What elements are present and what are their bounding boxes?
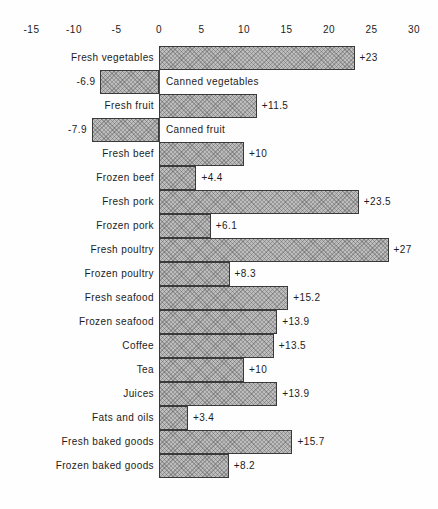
bar-row: Tea+10: [0, 358, 438, 382]
bar: [159, 358, 244, 382]
bar-row: Fresh pork+23.5: [0, 190, 438, 214]
value-label: +13.9: [282, 310, 309, 334]
category-label: Frozen beef: [96, 166, 154, 190]
value-label: +8.3: [235, 262, 256, 286]
bar: [159, 430, 292, 454]
category-label: Fresh vegetables: [71, 46, 154, 70]
bar-row: Fresh seafood+15.2: [0, 286, 438, 310]
bar: [159, 262, 230, 286]
value-label: -6.9: [77, 70, 96, 94]
value-label: +23: [360, 46, 378, 70]
bar: [159, 94, 257, 118]
category-label: Fresh pork: [102, 190, 154, 214]
bar-row: Frozen baked goods+8.2: [0, 454, 438, 478]
bar: [159, 46, 355, 70]
x-axis-tick-label: -10: [66, 23, 82, 37]
x-axis-tick-label: -15: [24, 23, 40, 37]
value-label: -7.9: [68, 118, 87, 142]
bar-row: Fresh baked goods+15.7: [0, 430, 438, 454]
bar: [159, 454, 229, 478]
value-label: +3.4: [193, 406, 214, 430]
bar: [159, 214, 211, 238]
bar-row: Frozen seafood+13.9: [0, 310, 438, 334]
category-label: Fresh baked goods: [62, 430, 154, 454]
x-axis-tick-label: 0: [156, 23, 162, 37]
bar: [159, 382, 277, 406]
bar: [159, 286, 288, 310]
bar-row: Fresh fruit+11.5: [0, 94, 438, 118]
value-label: +10: [249, 358, 267, 382]
category-label: Fresh seafood: [85, 286, 154, 310]
bar-row: Frozen pork+6.1: [0, 214, 438, 238]
bar: [159, 166, 196, 190]
bar-row: Canned vegetables-6.9: [0, 70, 438, 94]
x-axis-tick-label: 15: [280, 23, 292, 37]
value-label: +10: [249, 142, 267, 166]
bar-row: Fresh vegetables+23: [0, 46, 438, 70]
bar-row: Fresh poultry+27: [0, 238, 438, 262]
bar-row: Frozen beef+4.4: [0, 166, 438, 190]
category-label: Fresh beef: [102, 142, 154, 166]
category-label: Tea: [137, 358, 154, 382]
bar: [159, 334, 274, 358]
bar: [159, 142, 244, 166]
x-axis-tick-label: 25: [365, 23, 377, 37]
value-label: +8.2: [234, 454, 255, 478]
x-axis-tick-label: -5: [112, 23, 122, 37]
value-label: +6.1: [216, 214, 237, 238]
bar-row: Fats and oils+3.4: [0, 406, 438, 430]
x-axis-tick-label: 10: [238, 23, 250, 37]
plot-area: Fresh vegetables+23Canned vegetables-6.9…: [0, 46, 438, 478]
category-label: Fats and oils: [92, 406, 154, 430]
value-label: +13.5: [279, 334, 306, 358]
category-label: Canned vegetables: [166, 70, 259, 94]
value-label: +15.7: [297, 430, 324, 454]
x-axis: -15-10-5051015202530: [0, 23, 438, 37]
value-label: +11.5: [262, 94, 289, 118]
value-label: +13.9: [282, 382, 309, 406]
category-label: Fresh poultry: [90, 238, 154, 262]
category-label: Frozen poultry: [84, 262, 154, 286]
x-axis-tick-label: 5: [198, 23, 204, 37]
bar: [159, 406, 188, 430]
bar-row: Frozen poultry+8.3: [0, 262, 438, 286]
bar: [159, 238, 389, 262]
category-label: Canned fruit: [166, 118, 225, 142]
value-label: +23.5: [364, 190, 391, 214]
category-label: Fresh fruit: [105, 94, 154, 118]
bar-row: Canned fruit-7.9: [0, 118, 438, 142]
bar-row: Coffee+13.5: [0, 334, 438, 358]
bar: [159, 190, 359, 214]
category-label: Juices: [123, 382, 154, 406]
category-label: Frozen baked goods: [56, 454, 154, 478]
value-label: +4.4: [201, 166, 222, 190]
bar: [159, 310, 277, 334]
category-label: Frozen pork: [96, 214, 154, 238]
bar: [100, 70, 159, 94]
x-axis-tick-label: 20: [323, 23, 335, 37]
value-label: +27: [394, 238, 412, 262]
x-axis-tick-label: 30: [408, 23, 420, 37]
bar-chart-figure: -15-10-5051015202530 Fresh vegetables+23…: [0, 0, 438, 509]
bar-row: Fresh beef+10: [0, 142, 438, 166]
bar: [92, 118, 159, 142]
bar-row: Juices+13.9: [0, 382, 438, 406]
value-label: +15.2: [293, 286, 320, 310]
category-label: Coffee: [122, 334, 154, 358]
category-label: Frozen seafood: [79, 310, 154, 334]
